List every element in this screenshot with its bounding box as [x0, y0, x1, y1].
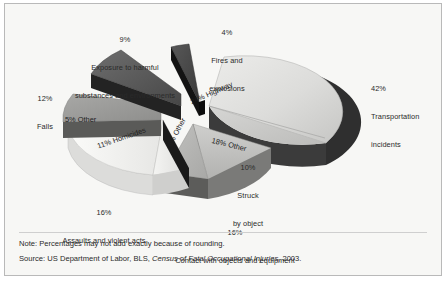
- label-falls: 12% Falls: [21, 76, 69, 150]
- label-exposure-line1: Exposure to harmful: [41, 63, 209, 72]
- label-falls-pct: 12%: [21, 94, 69, 103]
- footnote-source-prefix: Source: US Department of Labor, BLS,: [19, 254, 152, 263]
- label-struck-pct: 10%: [219, 163, 277, 172]
- footnote-source: Source: US Department of Labor, BLS, Cen…: [19, 254, 301, 263]
- footnote-source-title: Census of Fatal Occupational Injuries: [152, 254, 278, 263]
- footnote-note: Note: Percentages may not add exactly be…: [19, 239, 225, 248]
- label-transportation-line2: incidents: [371, 140, 442, 149]
- label-contact-pct: 16%: [127, 228, 343, 237]
- footnote-source-suffix: , 2003.: [278, 254, 301, 263]
- label-falls-line1: Falls: [21, 122, 69, 131]
- chart-frame: 24% Highway 18% Other 6% Other 11% Homic…: [4, 3, 442, 276]
- label-transportation-pct: 42%: [371, 84, 442, 93]
- label-struck-line1: Struck: [219, 191, 277, 200]
- label-transportation: 42% Transportation incidents: [371, 66, 442, 167]
- footnote-divider: [19, 232, 427, 233]
- label-transportation-line1: Transportation: [371, 112, 442, 121]
- label-exposure-pct: 9%: [41, 35, 209, 44]
